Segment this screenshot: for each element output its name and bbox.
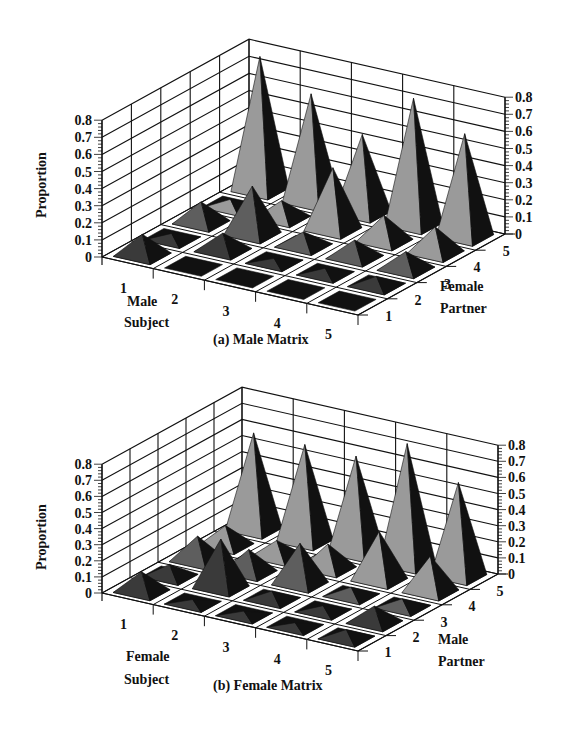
chart-panel-male: 00.10.20.30.40.50.60.70.800.10.20.30.40.… bbox=[75, 39, 533, 342]
z-tick-left: 0.6 bbox=[75, 489, 93, 504]
z-tick-right: 0.1 bbox=[508, 551, 526, 566]
partner-tick-label: 1 bbox=[385, 645, 392, 660]
z-tick-left: 0 bbox=[85, 586, 92, 601]
z-tick-left: 0.5 bbox=[75, 506, 93, 521]
z-tick-right: 0.8 bbox=[508, 438, 526, 453]
z-tick-left: 0.3 bbox=[75, 538, 93, 553]
z-tick-left: 0.1 bbox=[75, 233, 93, 248]
partner-tick-label: 4 bbox=[469, 599, 476, 614]
z-axis-right: 00.10.20.30.40.50.60.70.8 bbox=[505, 90, 533, 242]
subject-tick-label: 2 bbox=[171, 292, 178, 307]
z-tick-right: 0.6 bbox=[515, 124, 533, 139]
subject-tick-label: 5 bbox=[325, 663, 332, 678]
z-tick-right: 0.8 bbox=[515, 90, 533, 105]
subject-tick-label: 3 bbox=[223, 640, 230, 655]
z-tick-right: 0.1 bbox=[515, 210, 533, 225]
z-tick-right: 0.4 bbox=[508, 503, 526, 518]
partner-tick-label: 2 bbox=[415, 293, 422, 308]
z-tick-right: 0.5 bbox=[515, 142, 533, 157]
figure-canvas: 00.10.20.30.40.50.60.70.800.10.20.30.40.… bbox=[0, 0, 567, 740]
z-tick-right: 0.7 bbox=[508, 454, 526, 469]
subject-tick-label: 1 bbox=[120, 281, 127, 296]
z-tick-right: 0.5 bbox=[508, 487, 526, 502]
z-tick-left: 0.7 bbox=[75, 130, 93, 145]
chart-panel-female: 00.10.20.30.40.50.60.70.800.10.20.30.40.… bbox=[75, 387, 526, 678]
partner-tick-label: 1 bbox=[385, 309, 392, 324]
z-tick-left: 0.8 bbox=[75, 113, 93, 128]
z-tick-right: 0 bbox=[508, 567, 515, 582]
z-tick-left: 0.6 bbox=[75, 147, 93, 162]
z-axis-left: 00.10.20.30.40.50.60.70.8 bbox=[75, 113, 103, 265]
partner-tick-label: 5 bbox=[503, 244, 510, 259]
z-tick-left: 0.4 bbox=[75, 522, 93, 537]
z-tick-right: 0.7 bbox=[515, 107, 533, 122]
partner-tick-label: 4 bbox=[473, 260, 480, 275]
z-tick-left: 0.5 bbox=[75, 165, 93, 180]
subject-tick-label: 3 bbox=[223, 304, 230, 319]
z-axis-left: 00.10.20.30.40.50.60.70.8 bbox=[75, 457, 103, 601]
pyramid-s1-p5 bbox=[225, 433, 282, 539]
z-tick-left: 0.3 bbox=[75, 199, 93, 214]
z-tick-left: 0.2 bbox=[75, 216, 93, 231]
z-axis-right: 00.10.20.30.40.50.60.70.8 bbox=[498, 438, 526, 582]
subject-tick-label: 4 bbox=[274, 316, 281, 331]
z-tick-left: 0.4 bbox=[75, 182, 93, 197]
z-tick-right: 0.2 bbox=[508, 535, 526, 550]
subject-tick-label: 2 bbox=[171, 628, 178, 643]
z-tick-right: 0.3 bbox=[515, 176, 533, 191]
z-tick-right: 0.2 bbox=[515, 193, 533, 208]
subject-tick-label: 5 bbox=[325, 327, 332, 342]
z-tick-left: 0 bbox=[85, 250, 92, 265]
z-tick-right: 0.3 bbox=[508, 519, 526, 534]
pyramid-s5-p5 bbox=[436, 134, 494, 247]
z-tick-right: 0 bbox=[515, 227, 522, 242]
z-tick-left: 0.7 bbox=[75, 473, 93, 488]
z-tick-left: 0.8 bbox=[75, 457, 93, 472]
partner-tick-label: 2 bbox=[413, 630, 420, 645]
partner-tick-label: 3 bbox=[444, 277, 451, 292]
subject-tick-label: 4 bbox=[274, 652, 281, 667]
pyramid-s2-p5 bbox=[276, 445, 333, 551]
partner-tick-label: 3 bbox=[441, 615, 448, 630]
z-tick-right: 0.6 bbox=[508, 470, 526, 485]
partner-tick-label: 5 bbox=[497, 584, 504, 599]
z-tick-right: 0.4 bbox=[515, 159, 533, 174]
z-tick-left: 0.1 bbox=[75, 570, 93, 585]
subject-tick-label: 1 bbox=[120, 617, 127, 632]
z-tick-left: 0.2 bbox=[75, 554, 93, 569]
